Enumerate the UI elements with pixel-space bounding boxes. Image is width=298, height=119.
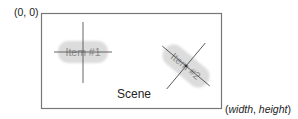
scene-diagram: Item #1 Item #2 Scene [0, 0, 298, 119]
paren-close: ) [287, 103, 291, 115]
size-coordinate-label: (width, height) [225, 103, 291, 115]
width-term: width [229, 103, 254, 115]
item-2: Item #2 [143, 23, 229, 109]
scene-label: Scene [117, 87, 151, 101]
item-1: Item #1 [54, 22, 112, 83]
height-term: height [259, 103, 288, 115]
